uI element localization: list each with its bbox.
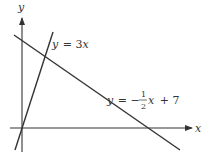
svg-text:x + 7: x + 7 <box>148 94 179 107</box>
line-y-equals-neg-half-x-plus-7 <box>14 35 180 150</box>
label-y-equals-3x: y = 3x <box>51 38 89 51</box>
x-axis-label: x <box>195 122 202 135</box>
label-y-equals-neg-half-x-plus-7: y = − 1 2 x + 7 <box>106 90 179 111</box>
y-axis-label: y <box>17 1 25 14</box>
fraction-denominator: 2 <box>141 102 146 111</box>
svg-text:y = −: y = − <box>106 94 140 107</box>
fraction-numerator: 1 <box>141 90 146 99</box>
diagram-canvas: y x y = 3x y = − 1 2 x + 7 <box>0 0 206 166</box>
svg-text:y = 3x: y = 3x <box>51 38 89 51</box>
